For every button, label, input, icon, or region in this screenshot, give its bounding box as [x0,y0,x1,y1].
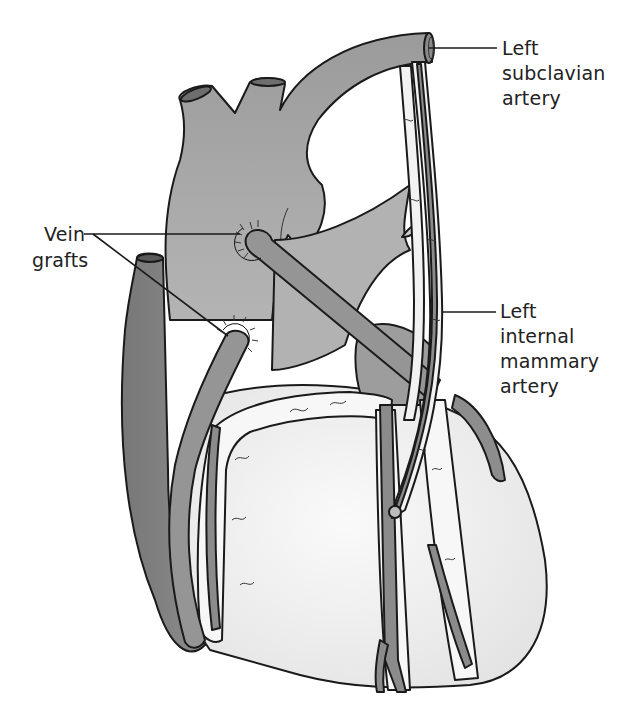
svg-text:Left: Left [500,300,537,322]
svg-text:grafts: grafts [32,249,88,271]
label-left-internal-mammary-artery: Left internal mammary artery [500,300,599,397]
svg-text:Vein: Vein [44,223,85,245]
label-vein-grafts: Vein grafts [32,223,88,271]
svg-text:Left: Left [502,37,539,59]
svg-text:internal: internal [500,325,575,347]
svg-text:artery: artery [502,87,561,109]
svg-text:artery: artery [500,375,559,397]
heart-ventricles [179,324,547,687]
svg-text:mammary: mammary [500,350,599,372]
anastomosis-icon [389,506,401,518]
svg-text:subclavian: subclavian [502,62,606,84]
cabg-heart-diagram: Left subclavian artery Vein grafts Left … [0,0,626,705]
label-left-subclavian-artery: Left subclavian artery [502,37,606,109]
